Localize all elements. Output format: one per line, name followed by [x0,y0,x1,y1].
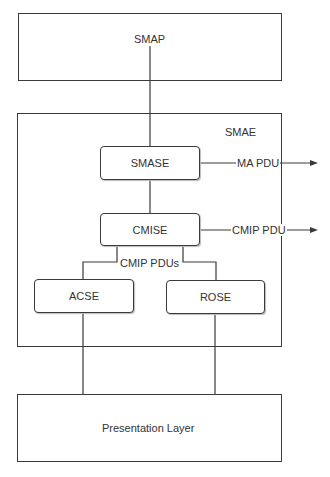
cmise-label: CMISE [133,224,168,236]
rose-box: ROSE [166,280,265,314]
smase-box: SMASE [100,146,200,180]
smase-label: SMASE [131,157,170,169]
cmip-pdus-label: CMIP PDUs [120,257,179,269]
smap-label: SMAP [134,33,165,45]
presentation-layer-label: Presentation Layer [102,422,194,434]
acse-box: ACSE [34,279,134,313]
cmip-pdu-label: CMIP PDU [231,224,287,236]
acse-label: ACSE [69,290,99,302]
smap-box [18,13,282,81]
smae-label: SMAE [225,126,256,138]
ma-pdu-label: MA PDU [236,157,280,169]
cmise-box: CMISE [100,213,200,246]
rose-label: ROSE [200,291,231,303]
